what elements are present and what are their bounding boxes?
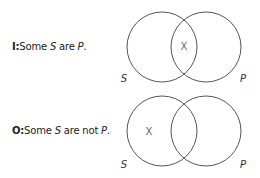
venn-diagram-O: X S P — [0, 88, 260, 178]
x-mark-s-only: X — [146, 126, 153, 137]
diagram-O: O:Some S are not P. X S P — [0, 88, 260, 177]
label-P: P — [240, 73, 247, 84]
venn-diagram-I: X S P — [0, 0, 260, 89]
label-P: P — [240, 159, 247, 170]
label-S: S — [121, 73, 128, 84]
circle-P — [171, 96, 241, 166]
circle-S — [127, 96, 197, 166]
x-mark-intersection: X — [181, 41, 188, 52]
diagram-I: I:Some S are P. X S P — [0, 0, 260, 89]
label-S: S — [121, 159, 128, 170]
